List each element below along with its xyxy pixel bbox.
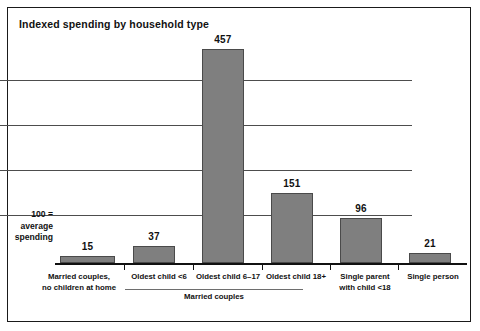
axis-tick-3: [262, 264, 263, 270]
axis-tick-2: [193, 264, 194, 270]
plot-area: 15 37 457 151 96 21: [55, 40, 467, 263]
baseline-reference-line1: 100 =: [11, 209, 53, 221]
group-bracket-line: [125, 289, 303, 290]
bar-value-3: 457: [214, 35, 231, 45]
category-label-5-line2: with child <18: [319, 283, 411, 294]
bar-value-6: 21: [424, 239, 436, 249]
axis-tick-4: [330, 264, 331, 270]
bar-value-1: 15: [82, 242, 94, 252]
category-label-1-line1: Married couples,: [36, 272, 122, 283]
axis-tick-5: [398, 264, 399, 270]
baseline-reference-line2: average: [11, 221, 53, 233]
bar-rect-6[interactable]: [409, 253, 451, 263]
bar-value-4: 151: [283, 179, 300, 189]
bar-rect-4[interactable]: [271, 193, 313, 263]
category-label-6: Single person: [387, 272, 479, 283]
bar-group-6[interactable]: 21: [409, 239, 451, 263]
group-bracket-label: Married couples: [125, 292, 303, 301]
bar-rect-2[interactable]: [133, 246, 175, 263]
bar-rect-3[interactable]: [202, 49, 244, 263]
bar-group-5[interactable]: 96: [340, 204, 382, 263]
bar-group-4[interactable]: 151: [271, 179, 313, 263]
category-label-6-line1: Single person: [387, 272, 479, 283]
bar-group-1[interactable]: 15: [60, 242, 115, 263]
category-label-1-line2: no children at home: [36, 283, 122, 294]
bar-value-5: 96: [355, 204, 367, 214]
category-label-1: Married couples, no children at home: [36, 272, 122, 293]
chart-figure: Indexed spending by household type 100 =…: [0, 0, 480, 331]
bar-group-2[interactable]: 37: [133, 232, 175, 263]
x-axis-line: [55, 263, 467, 265]
chart-title: Indexed spending by household type: [19, 18, 209, 30]
bar-group-3[interactable]: 457: [202, 35, 244, 263]
baseline-reference-line3: spending: [11, 232, 53, 244]
axis-tick-1: [124, 264, 125, 270]
baseline-reference-label: 100 = average spending: [11, 209, 53, 244]
bar-value-2: 37: [148, 232, 160, 242]
bar-rect-5[interactable]: [340, 218, 382, 263]
bar-rect-1[interactable]: [60, 256, 115, 263]
